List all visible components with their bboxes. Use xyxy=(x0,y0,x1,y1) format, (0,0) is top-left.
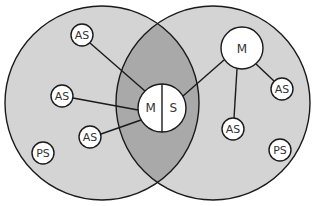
node-as-right-top: AS xyxy=(271,78,293,100)
node-ps-right: PS xyxy=(269,139,291,161)
node-label: AS xyxy=(75,29,90,42)
node-label: PS xyxy=(36,147,50,160)
node-as-left-top: AS xyxy=(71,24,93,46)
node-label: M xyxy=(237,42,247,56)
node-as-left-low: AS xyxy=(79,126,101,148)
venn-network-diagram: M S ASASASPSMASASPS xyxy=(0,0,314,206)
node-as-right-low: AS xyxy=(222,118,244,140)
node-label: AS xyxy=(55,90,70,103)
center-node-s-label: S xyxy=(169,101,177,115)
node-ps-left: PS xyxy=(32,142,54,164)
center-node-m-label: M xyxy=(146,101,156,115)
node-label: PS xyxy=(273,144,287,157)
node-label: AS xyxy=(83,131,98,144)
node-m-right: M xyxy=(221,27,263,69)
node-label: AS xyxy=(226,123,241,136)
center-ms-node: M S xyxy=(138,84,186,132)
node-as-left-mid: AS xyxy=(51,85,73,107)
node-label: AS xyxy=(275,83,290,96)
